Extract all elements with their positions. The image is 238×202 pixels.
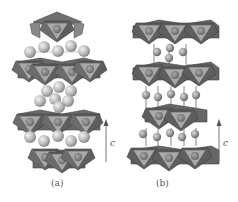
octahedral-layer-bottom — [28, 149, 95, 173]
sphere-layer-3 — [24, 130, 90, 147]
sphere-layer-2 — [34, 81, 77, 113]
panel-label-a: (a) — [51, 178, 63, 188]
panel-a: c (a) — [0, 0, 119, 202]
octahedral-layer-top — [132, 20, 219, 44]
octahedral-layer-middle — [12, 58, 107, 85]
c-axis-label-a: c — [110, 138, 115, 148]
octahedral-layer-3 — [142, 104, 207, 131]
rod-sphere-layer-1 — [153, 44, 187, 64]
panel-label-b: (b) — [156, 178, 169, 188]
c-axis-arrow-icon — [104, 119, 109, 162]
sphere-layer-1 — [24, 40, 90, 58]
c-axis-label-b: c — [223, 138, 228, 148]
crystal-structure-a — [0, 0, 119, 202]
crystal-structure-b — [119, 0, 238, 202]
octahedral-layer-bottom — [127, 146, 219, 171]
octahedral-layer-2 — [132, 62, 219, 88]
octahedral-layer-top — [30, 12, 84, 42]
rod-sphere-layer-3 — [139, 128, 199, 146]
panel-b: c (b) — [119, 0, 238, 202]
